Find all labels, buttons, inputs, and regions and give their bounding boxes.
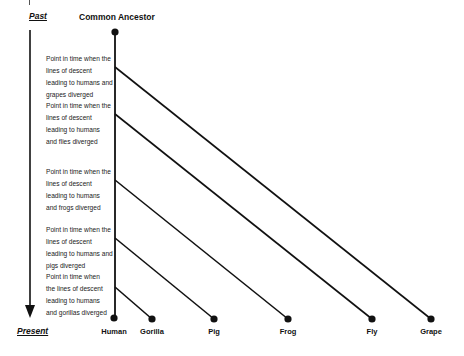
- note-line: Point in time when the: [46, 100, 112, 112]
- pig-note: Point in time when thelines of descentle…: [46, 224, 112, 272]
- note-line: and gorillas diverged: [46, 307, 112, 319]
- pig-label: Pig: [208, 327, 220, 336]
- grape-dot: [427, 315, 434, 322]
- frog-branch: [115, 180, 288, 319]
- note-line: Point in time when: [46, 271, 112, 283]
- note-line: lines of descent: [46, 112, 112, 124]
- note-line: lines of descent: [46, 236, 112, 248]
- fly-branch: [115, 114, 372, 319]
- note-line: Point in time when the: [46, 224, 112, 236]
- node-dots: [110, 28, 434, 322]
- common-ancestor-label: Common Ancestor: [79, 12, 155, 22]
- gorilla-note: Point in time whenthe lines of descentle…: [46, 271, 112, 319]
- past-label: Past: [29, 11, 47, 21]
- present-label: Present: [17, 326, 48, 336]
- note-line: Point in time when the: [46, 166, 112, 178]
- note-line: leading to humans: [46, 295, 112, 307]
- note-line: Point in time when the: [46, 53, 112, 65]
- frog-note: Point in time when thelines of descentle…: [46, 166, 112, 214]
- note-line: leading to humans and: [46, 248, 112, 260]
- pig-dot: [210, 315, 217, 322]
- frog-label: Frog: [280, 327, 297, 336]
- note-line: and frogs diverged: [46, 202, 112, 214]
- pig-branch: [115, 238, 214, 319]
- divergence-branches: [115, 67, 431, 319]
- time-arrow: [25, 30, 35, 318]
- gorilla-branch: [115, 287, 152, 319]
- note-line: and flies diverged: [46, 136, 112, 148]
- frog-dot: [284, 315, 291, 322]
- human-label: Human: [101, 327, 126, 336]
- note-line: lines of descent: [46, 178, 112, 190]
- grape-label: Grape: [420, 327, 442, 336]
- note-line: leading to humans: [46, 124, 112, 136]
- fly-note: Point in time when thelines of descentle…: [46, 100, 112, 148]
- arrow-down-icon: [25, 305, 35, 318]
- note-line: the lines of descent: [46, 283, 112, 295]
- gorilla-label: Gorilla: [140, 327, 164, 336]
- note-line: leading to humans and: [46, 77, 112, 89]
- fly-dot: [368, 315, 375, 322]
- grape-note: Point in time when thelines of descentle…: [46, 53, 112, 101]
- note-line: lines of descent: [46, 65, 112, 77]
- grape-branch: [115, 67, 431, 319]
- note-line: leading to humans: [46, 190, 112, 202]
- common-ancestor-dot: [111, 28, 118, 35]
- gorilla-dot: [148, 315, 155, 322]
- fly-label: Fly: [367, 327, 378, 336]
